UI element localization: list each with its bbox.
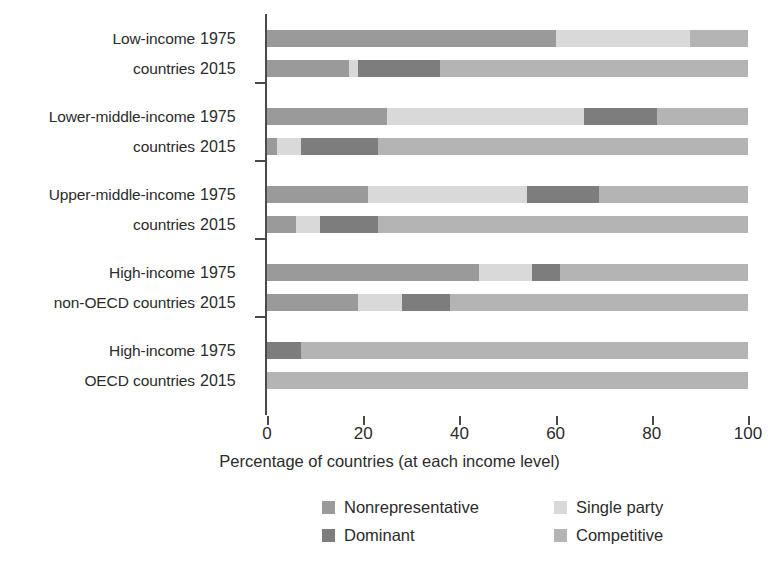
bar-segment-dominant — [358, 60, 440, 77]
bar-segment-dominant — [301, 138, 378, 155]
bar-row — [267, 138, 748, 155]
category-group-label: Low-income countries — [0, 24, 195, 84]
bar-segment-competitive — [440, 60, 748, 77]
bar-row — [267, 216, 748, 233]
year-label: 1975 — [200, 24, 250, 54]
year-label: 2015 — [200, 54, 250, 84]
stacked-bar-chart: Low-income countries19752015Lower-middle… — [0, 0, 779, 563]
legend-item[interactable]: Nonrepresentative — [322, 494, 479, 521]
bar-row — [267, 294, 748, 311]
category-label-column: Low-income countries19752015Lower-middle… — [0, 14, 258, 415]
legend-item-label: Dominant — [344, 526, 415, 545]
legend-item[interactable]: Single party — [554, 494, 663, 521]
bar-segment-competitive — [301, 342, 748, 359]
y-axis-group-tick — [255, 160, 267, 162]
year-label-column: 19752015 — [200, 258, 250, 318]
year-label: 1975 — [200, 180, 250, 210]
x-axis-tick-label: 20 — [354, 424, 373, 444]
bar-segment-competitive — [599, 186, 748, 203]
bar-segment-single-party — [277, 138, 301, 155]
legend-swatch-icon — [322, 501, 335, 514]
legend-item-label: Nonrepresentative — [344, 498, 479, 517]
x-axis-tick-label: 0 — [262, 424, 271, 444]
bar-segment-nonrepresentative — [267, 264, 479, 281]
bar-segment-dominant — [402, 294, 450, 311]
category-group-label: Lower-middle-income countries — [0, 102, 195, 162]
plot-area — [267, 14, 748, 415]
year-label: 2015 — [200, 132, 250, 162]
bar-segment-competitive — [657, 108, 748, 125]
x-axis-title: Percentage of countries (at each income … — [0, 452, 779, 471]
category-group-label: High-income non-OECD countries — [0, 258, 195, 318]
bar-row — [267, 186, 748, 203]
bar-segment-single-party — [556, 30, 691, 47]
bar-segment-single-party — [387, 108, 584, 125]
category-group-label: High-income OECD countries — [0, 336, 195, 396]
legend-item[interactable]: Dominant — [322, 522, 415, 549]
bar-segment-nonrepresentative — [267, 30, 556, 47]
bar-segment-nonrepresentative — [267, 60, 349, 77]
bar-segment-competitive — [450, 294, 748, 311]
bar-segment-dominant — [584, 108, 656, 125]
legend-item-label: Single party — [576, 498, 663, 517]
year-label-column: 19752015 — [200, 102, 250, 162]
x-axis-tick-label: 80 — [642, 424, 661, 444]
legend-item[interactable]: Competitive — [554, 522, 663, 549]
year-label: 1975 — [200, 102, 250, 132]
bar-segment-single-party — [479, 264, 532, 281]
year-label: 2015 — [200, 210, 250, 240]
bar-segment-competitive — [690, 30, 748, 47]
year-label-column: 19752015 — [200, 180, 250, 240]
chart-legend: NonrepresentativeDominantSingle partyCom… — [322, 494, 742, 552]
bar-row — [267, 108, 748, 125]
year-label: 2015 — [200, 288, 250, 318]
year-label: 1975 — [200, 258, 250, 288]
bar-segment-competitive — [378, 138, 748, 155]
bar-segment-nonrepresentative — [267, 186, 368, 203]
legend-swatch-icon — [554, 529, 567, 542]
bar-segment-single-party — [358, 294, 401, 311]
year-label: 2015 — [200, 366, 250, 396]
legend-swatch-icon — [322, 529, 335, 542]
bar-row — [267, 30, 748, 47]
bar-row — [267, 264, 748, 281]
bar-segment-single-party — [349, 60, 359, 77]
year-label: 1975 — [200, 336, 250, 366]
year-label-column: 19752015 — [200, 24, 250, 84]
x-axis-tick-label: 40 — [450, 424, 469, 444]
year-label-column: 19752015 — [200, 336, 250, 396]
legend-swatch-icon — [554, 501, 567, 514]
bar-row — [267, 372, 748, 389]
bar-segment-competitive — [378, 216, 748, 233]
bar-segment-nonrepresentative — [267, 294, 358, 311]
x-axis-tick-label: 100 — [734, 424, 762, 444]
category-group-label: Upper-middle-income countries — [0, 180, 195, 240]
bar-segment-nonrepresentative — [267, 108, 387, 125]
x-axis-tick-labels: 020406080100 — [267, 424, 748, 448]
bar-row — [267, 60, 748, 77]
x-axis-tick-label: 60 — [546, 424, 565, 444]
bar-segment-dominant — [527, 186, 599, 203]
bar-segment-nonrepresentative — [267, 216, 296, 233]
bar-segment-competitive — [267, 372, 748, 389]
bar-segment-dominant — [532, 264, 561, 281]
bar-segment-single-party — [296, 216, 320, 233]
bar-segment-nonrepresentative — [267, 138, 277, 155]
bar-row — [267, 342, 748, 359]
bar-segment-dominant — [320, 216, 378, 233]
bar-segment-dominant — [267, 342, 301, 359]
y-axis-group-tick — [255, 82, 267, 84]
bar-segment-competitive — [560, 264, 748, 281]
y-axis-group-tick — [255, 238, 267, 240]
legend-item-label: Competitive — [576, 526, 663, 545]
y-axis-group-tick — [255, 316, 267, 318]
bar-segment-single-party — [368, 186, 527, 203]
